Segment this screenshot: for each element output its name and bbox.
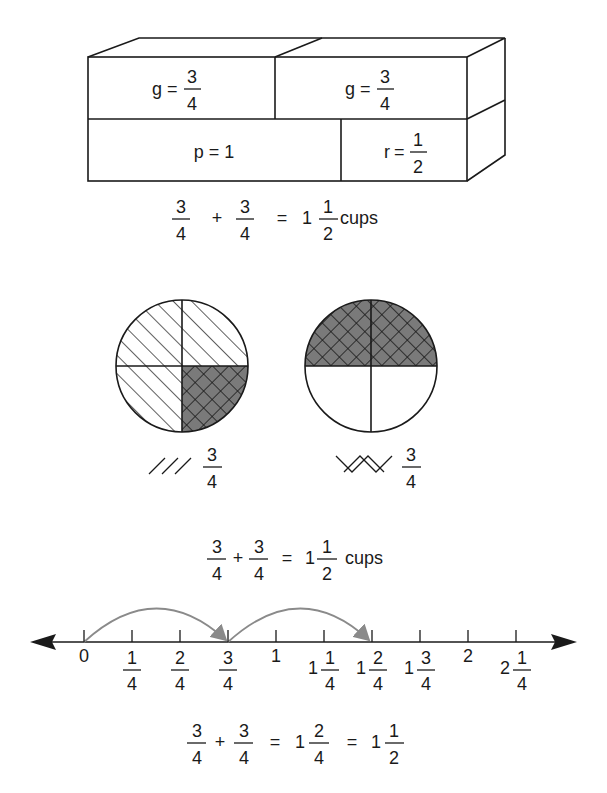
eq-den: 2	[323, 224, 333, 244]
box-model: g = 3 4 g = 3 4 p = 1 r = 1 2	[88, 38, 505, 181]
box-equation: 3 4 + 3 4 = 1 1 2 cups	[172, 197, 378, 244]
eq-den: 4	[212, 564, 222, 584]
legend-num: 3	[207, 445, 217, 465]
legend-crosshatch: 3 4	[336, 445, 421, 492]
eq-num: 1	[389, 721, 399, 741]
cell-purple: p = 1	[194, 142, 235, 162]
jump-arc-1	[84, 608, 226, 642]
tick-whole: 1	[404, 658, 414, 678]
eq-den: 4	[314, 748, 324, 768]
eq-num: 3	[212, 537, 222, 557]
eq-den: 4	[192, 748, 202, 768]
eq-plus: +	[212, 208, 223, 228]
tick-num: 1	[517, 648, 527, 668]
tick-den: 4	[373, 674, 383, 694]
fraction-models-diagram: g = 3 4 g = 3 4 p = 1 r = 1 2 3 4 + 3	[0, 0, 607, 793]
jump-arc-2	[228, 608, 369, 642]
tick-7: 134	[404, 630, 435, 694]
tick-6: 124	[356, 630, 387, 694]
cell-eq: =	[360, 79, 371, 99]
tick-0: 0	[79, 630, 89, 666]
eq-equals: =	[347, 732, 358, 752]
tick-4: 1	[271, 630, 281, 666]
eq-num: 1	[322, 537, 332, 557]
tick-2: 24	[171, 630, 189, 694]
tick-den: 4	[127, 674, 137, 694]
legend-num: 3	[406, 445, 416, 465]
eq-den: 4	[239, 748, 249, 768]
tick-whole: 1	[356, 658, 366, 678]
tick-den: 4	[223, 674, 233, 694]
eq-unit: cups	[340, 208, 378, 228]
eq-equals: =	[277, 208, 288, 228]
cell-num: 3	[187, 67, 197, 87]
tick-9: 214	[500, 630, 531, 694]
circle-equation: 3 4 + 3 4 = 1 1 2 cups	[207, 537, 383, 584]
diagonal-hatch-icon	[149, 458, 191, 474]
eq-num: 1	[323, 197, 333, 217]
tick-3: 34	[219, 630, 237, 694]
cell-green-right: g = 3 4	[345, 67, 394, 114]
legend-den: 4	[406, 472, 416, 492]
eq-whole: 1	[371, 732, 381, 752]
box-top-divider	[275, 38, 322, 57]
eq-whole: 1	[305, 548, 315, 568]
legend-den: 4	[207, 472, 217, 492]
tick-1: 14	[123, 630, 141, 694]
tick-num: 2	[373, 648, 383, 668]
cell-red: r = 1 2	[384, 130, 427, 177]
eq-num: 2	[314, 721, 324, 741]
eq-num: 3	[176, 197, 186, 217]
eq-whole: 1	[302, 208, 312, 228]
number-line: 014243411141241342214	[30, 608, 577, 694]
left-circle	[116, 300, 248, 432]
eq-whole: 1	[295, 732, 305, 752]
tick-num: 3	[421, 648, 431, 668]
tick-den: 4	[325, 674, 335, 694]
cell-var: r	[384, 142, 390, 162]
legend-diagonal-hatch: 3 4	[149, 445, 222, 492]
tick-5: 114	[308, 630, 339, 694]
eq-equals: =	[282, 548, 293, 568]
right-circle	[305, 300, 437, 432]
eq-plus: +	[215, 732, 226, 752]
cell-var: g	[345, 79, 355, 99]
cell-num: 3	[380, 67, 390, 87]
crosshatch-icon	[336, 456, 392, 472]
cell-den: 4	[187, 94, 197, 114]
tick-den: 4	[517, 674, 527, 694]
eq-den: 4	[240, 224, 250, 244]
eq-den: 4	[254, 564, 264, 584]
tick-whole: 0	[79, 646, 89, 666]
tick-whole: 2	[463, 646, 473, 666]
cell-den: 2	[413, 157, 423, 177]
number-line-equation: 3 4 + 3 4 = 1 2 4 = 1 1 2	[187, 721, 404, 768]
cell-green-left: g = 3 4	[152, 67, 201, 114]
eq-num: 3	[240, 197, 250, 217]
cell-den: 4	[380, 94, 390, 114]
tick-whole: 1	[271, 646, 281, 666]
tick-den: 4	[421, 674, 431, 694]
tick-whole: 2	[500, 658, 510, 678]
tick-den: 4	[175, 674, 185, 694]
cell-eq: =	[167, 79, 178, 99]
tick-num: 3	[223, 648, 233, 668]
eq-den: 2	[389, 748, 399, 768]
tick-whole: 1	[308, 658, 318, 678]
cell-num: 1	[413, 130, 423, 150]
eq-equals: =	[270, 732, 281, 752]
tick-num: 1	[127, 648, 137, 668]
cell-eq: =	[394, 142, 405, 162]
eq-num: 3	[192, 721, 202, 741]
tick-num: 2	[175, 648, 185, 668]
eq-den: 4	[176, 224, 186, 244]
eq-plus: +	[233, 548, 244, 568]
tick-8: 2	[463, 630, 473, 666]
cell-var: g	[152, 79, 162, 99]
tick-num: 1	[325, 648, 335, 668]
eq-den: 2	[322, 564, 332, 584]
eq-num: 3	[254, 537, 264, 557]
eq-unit: cups	[345, 548, 383, 568]
eq-num: 3	[239, 721, 249, 741]
box-right-divider	[467, 100, 505, 119]
